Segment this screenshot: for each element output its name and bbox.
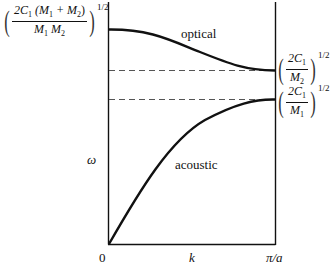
- optical-max-label: ( 2C1 (M1 + M2) M1 M2 )1/2: [2, 4, 109, 39]
- acoustic-max-label: ( 2C1 M1 )1/2: [276, 85, 330, 120]
- acoustic-branch-label: acoustic: [175, 157, 218, 173]
- k-axis-label: k: [189, 250, 195, 266]
- omega-axis-label: ω: [87, 152, 96, 168]
- optical-branch-label: optical: [181, 26, 216, 42]
- optical-min-label: ( 2C1 M2 )1/2: [276, 52, 330, 87]
- origin-label: 0: [99, 250, 106, 266]
- zone-boundary-label: π/a: [266, 250, 283, 266]
